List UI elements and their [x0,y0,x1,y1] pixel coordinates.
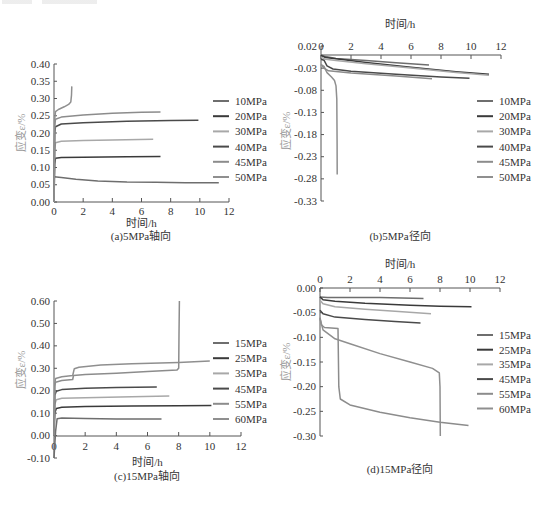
x-tick-label: 2 [348,40,354,52]
y-tick-label: 0.20 [31,384,51,396]
legend-label: 60MPa [499,403,531,415]
series-line-20mpa [321,55,489,74]
y-tick-label: -0.10 [293,331,316,343]
y-tick-label: 0.30 [31,92,51,104]
y-tick-label: 0.20 [31,127,51,139]
legend-label: 10MPa [499,95,531,107]
legend-label: 45MPa [499,373,531,385]
y-tick-label: -0.33 [294,195,317,207]
y-tick-label: -0.25 [293,405,316,417]
y-tick-label: -0.10 [27,452,50,464]
x-axis-label: 时间/h [126,217,157,229]
legend-label: 45MPa [235,156,267,168]
x-tick-label: 4 [110,205,116,217]
x-tick-label: 6 [139,205,145,217]
y-tick-label: 0.00 [297,282,317,294]
x-tick-label: 4 [377,273,383,285]
y-tick-label: -0.30 [293,430,316,442]
chart-caption: (c)15MPa轴向 [114,469,180,483]
y-tick-label: -0.03 [294,62,317,74]
y-tick-label: 0.05 [31,178,51,190]
legend-label: 55MPa [235,398,267,410]
series-line-35mpa [54,396,169,436]
legend-label: 50MPa [235,171,267,183]
y-tick-label: -0.13 [294,106,317,118]
x-tick-label: 4 [378,40,384,52]
legend-label: 25MPa [499,344,531,356]
legend-label: 35MPa [235,367,267,379]
x-axis-label: 时间/h [132,456,163,468]
x-tick-label: 8 [437,273,443,285]
y-tick-label: 0.35 [31,75,51,87]
y-tick-label: -0.23 [294,150,317,162]
x-tick-label: 0 [318,40,324,52]
chart-panel-c: -0.100.000.100.200.300.400.500.600246810… [14,295,267,484]
chart-caption: (a)5MPa轴向 [111,229,172,243]
legend-label: 45MPa [499,156,531,168]
x-tick-label: 0 [51,205,57,217]
y-tick-label: 0.00 [31,196,51,208]
y-axis-label: 应变ε/% [14,351,27,390]
chart-caption: (b)5MPa径向 [369,229,430,243]
series-line-30mpa [54,139,153,202]
chart-caption: (d)15MPa径向 [367,462,434,476]
x-tick-label: 2 [82,440,88,452]
legend-label: 50MPa [499,171,531,183]
series-line-40mpa [54,120,198,202]
legend-label: 10MPa [235,95,267,107]
y-tick-label: -0.05 [293,306,316,318]
y-tick-label: -0.28 [294,172,317,184]
series-line-55mpa [54,301,179,436]
series-line-50mpa [321,65,337,175]
y-tick-label: -0.15 [293,356,316,368]
x-tick-label: 2 [80,205,86,217]
legend-label: 45MPa [235,383,267,395]
y-tick-label: 0.15 [31,144,51,156]
series-line-55mpa [320,318,469,426]
x-tick-label: 6 [407,273,413,285]
y-tick-label: -0.18 [294,128,317,140]
legend-label: 15MPa [235,337,267,349]
legend-label: 40MPa [235,141,267,153]
legend-label: 25MPa [235,352,267,364]
chart-panel-d: 0.00-0.05-0.10-0.15-0.20-0.25-0.30024681… [279,258,531,476]
y-tick-label: 0.40 [31,339,51,351]
figure-canvas: 0.000.050.100.150.200.250.300.350.400246… [0,0,545,512]
x-tick-label: 8 [176,440,182,452]
legend-label: 55MPa [499,388,531,400]
x-tick-label: 8 [168,205,174,217]
legend-label: 35MPa [499,358,531,370]
x-tick-label: 8 [438,40,444,52]
y-axis-label: 应变ε/% [14,114,27,153]
y-axis-label: 应变ε/% [279,112,292,151]
series-line-35mpa [320,300,431,313]
x-tick-label: 10 [204,440,216,452]
y-tick-label: 0.60 [31,295,51,307]
legend-label: 30MPa [235,125,267,137]
x-tick-label: 12 [236,440,247,452]
x-tick-label: 12 [224,205,235,217]
legend-label: 15MPa [499,329,531,341]
series-line-10mpa [54,177,219,183]
series-line-25mpa [54,406,211,436]
legend-label: 40MPa [499,141,531,153]
y-tick-label: 0.02 [298,40,317,52]
chart-panel-a: 0.000.050.100.150.200.250.300.350.400246… [14,58,267,244]
y-tick-label: -0.08 [294,84,317,96]
y-tick-label: 0.25 [31,109,51,121]
legend-label: 30MPa [499,125,531,137]
legend-label: 60MPa [235,413,267,425]
y-tick-label: 0.50 [31,317,51,329]
series-line-45mpa [321,65,432,79]
x-tick-label: 10 [194,205,206,217]
y-tick-label: 0.30 [31,362,51,374]
x-tick-label: 10 [466,40,478,52]
x-tick-label: 12 [496,40,507,52]
series-line-45mpa [54,387,157,436]
x-tick-label: 2 [347,273,353,285]
y-tick-label: -0.20 [293,380,316,392]
y-tick-label: 0.40 [31,58,51,70]
series-line-15mpa [54,418,162,458]
x-tick-label: 6 [408,40,414,52]
x-tick-label: 12 [495,273,506,285]
